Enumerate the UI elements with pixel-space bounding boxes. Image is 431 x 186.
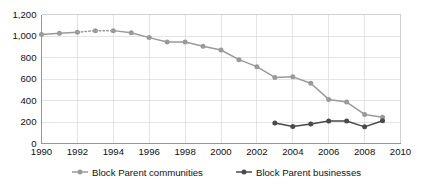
series-segment [275,77,293,78]
series-segment [311,83,329,99]
data-point [380,118,385,123]
legend-marker [78,170,83,175]
series-segment [275,123,293,126]
legend-marker [242,170,247,175]
series-segment [365,114,383,117]
data-point [219,47,224,52]
data-point [111,28,116,33]
data-point [362,112,367,117]
data-point [344,118,349,123]
x-tick-label: 2006 [318,146,339,157]
y-tick-label: 400 [20,95,36,106]
data-point [39,32,44,37]
data-point [326,118,331,123]
series-segment [293,124,311,127]
data-point [326,97,331,102]
data-point [308,121,313,126]
data-point [183,39,188,44]
series-segment [113,31,131,33]
data-point [165,39,170,44]
x-tick-label: 1996 [139,146,160,157]
data-point [308,81,313,86]
y-tick-label: 800 [20,52,36,63]
legend-label: Block Parent communities [92,167,203,178]
data-point [93,28,98,33]
data-point [57,31,62,36]
data-point [236,57,241,62]
y-tick-label: 1,000 [12,30,36,41]
series-segment [59,32,77,33]
x-tick-label: 2008 [354,146,375,157]
series-segment [239,60,257,67]
y-tick-label: 600 [20,73,36,84]
data-point [254,64,259,69]
chart-canvas: 02004006008001,0001,20019901992199419961… [0,0,431,186]
legend-item-2[interactable]: Block Parent businesses [236,167,361,178]
y-tick-label: 1,200 [12,9,36,20]
x-tick-label: 2004 [282,146,304,157]
line-chart: 02004006008001,0001,20019901992199419961… [0,0,431,186]
data-point [344,100,349,105]
data-point [147,35,152,40]
series-segment [131,33,149,38]
x-tick-label: 1994 [103,146,125,157]
data-point [362,124,367,129]
series-segment [293,77,311,83]
data-point [290,124,295,129]
x-tick-label: 2000 [210,146,231,157]
x-tick-label: 1992 [67,146,88,157]
x-tick-label: 2002 [246,146,267,157]
x-tick-label: 1990 [31,146,52,157]
y-tick-label: 200 [20,116,36,127]
series-segment [185,42,203,46]
legend-label: Block Parent businesses [256,167,361,178]
x-tick-label: 1998 [174,146,195,157]
series-segment [365,121,383,127]
series-segment [77,31,95,33]
data-point [272,75,277,80]
data-point [272,121,277,126]
series-1 [39,28,385,120]
series-segment [257,67,275,78]
series-segment [221,50,239,60]
series-segment [311,121,329,124]
legend-item-1[interactable]: Block Parent communities [72,167,203,178]
data-point [201,44,206,49]
series-segment [203,46,221,50]
x-tick-label: 2010 [390,146,411,157]
data-point [129,30,134,35]
data-point [290,74,295,79]
series-segment [347,102,365,114]
series-segment [149,38,167,42]
series-segment [42,33,60,34]
data-point [75,30,80,35]
